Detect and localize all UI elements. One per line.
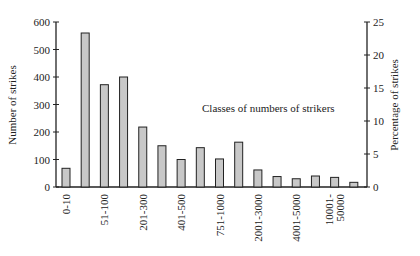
x-tick-label: 51-100 xyxy=(98,194,110,226)
x-tick-label: 4001-5000 xyxy=(290,194,302,242)
y-right-tick-label: 5 xyxy=(373,148,379,160)
y-tick-label: 300 xyxy=(34,99,51,111)
bar xyxy=(331,177,339,187)
y-tick-label: 0 xyxy=(45,181,51,193)
x-tick-label: 50000 xyxy=(334,194,346,222)
x-tick-label: 751-1000 xyxy=(214,194,226,237)
bar xyxy=(254,170,262,187)
x-tick-label: 401-500 xyxy=(175,194,187,231)
y-tick-label: 200 xyxy=(34,126,51,138)
x-tick-label: 0-10 xyxy=(60,194,72,215)
y-right-tick-label: 25 xyxy=(373,16,385,28)
bar xyxy=(235,142,243,187)
bar xyxy=(120,77,128,187)
y-tick-label: 500 xyxy=(34,44,51,56)
chart-annotation: Classes of numbers of strikers xyxy=(202,102,335,114)
y-right-tick-label: 0 xyxy=(373,181,379,193)
y-axis-label-right: Percentage of strikes xyxy=(388,59,400,151)
y-tick-label: 600 xyxy=(34,16,51,28)
right-y-axis: 0510152025 xyxy=(364,16,385,193)
y-right-tick-label: 10 xyxy=(373,115,385,127)
bar xyxy=(81,33,89,187)
x-axis-labels: 0-1051-100201-300401-500751-10002001-300… xyxy=(60,194,346,242)
y-tick-label: 400 xyxy=(34,71,51,83)
bar xyxy=(100,85,108,187)
bar xyxy=(311,176,319,187)
bar xyxy=(139,127,147,187)
bar xyxy=(273,177,281,187)
x-tick-label: 2001-3000 xyxy=(252,194,264,242)
bar xyxy=(216,159,224,187)
bar xyxy=(62,168,70,187)
y-right-tick-label: 20 xyxy=(373,49,385,61)
bar xyxy=(292,179,300,187)
y-tick-label: 100 xyxy=(34,154,51,166)
y-right-tick-label: 15 xyxy=(373,82,385,94)
bar xyxy=(177,160,185,188)
bar xyxy=(158,146,166,187)
bar xyxy=(196,148,204,187)
y-axis-label-left: Number of strikes xyxy=(6,65,18,144)
bar-chart: 0100200300400500600 0510152025 0-1051-10… xyxy=(0,0,420,256)
bar xyxy=(350,182,358,187)
x-tick-label: 201-300 xyxy=(137,194,149,231)
